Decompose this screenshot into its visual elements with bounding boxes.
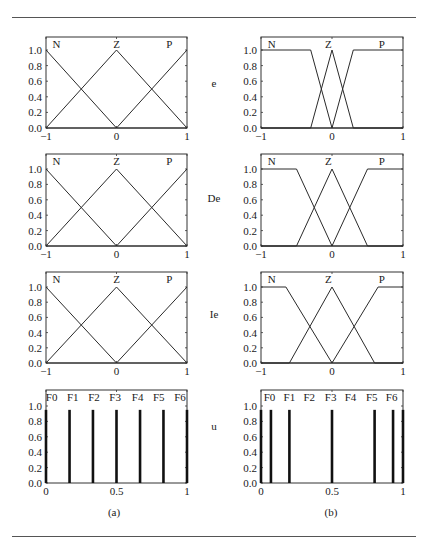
- row-label: Ie: [210, 308, 219, 320]
- x-tick-label: 1: [184, 130, 190, 142]
- plots-canvas: 0.00.20.40.60.81.0−101NZP0.00.20.40.60.8…: [0, 0, 427, 548]
- set-label: F0: [46, 391, 58, 403]
- set-label: Z: [325, 273, 332, 285]
- set-label: N: [53, 273, 61, 285]
- y-tick-label: 0.6: [28, 194, 42, 206]
- plot-frame: [261, 154, 403, 246]
- y-tick-label: 0.6: [243, 75, 257, 87]
- set-label: F5: [366, 391, 378, 403]
- membership-N: [46, 169, 187, 246]
- plot-frame: [46, 154, 187, 246]
- set-label: F6: [174, 391, 186, 403]
- y-tick-label: 0.4: [243, 327, 257, 339]
- set-label: P: [166, 38, 172, 50]
- y-tick-label: 0.6: [28, 311, 42, 323]
- x-tick-label: 0: [258, 485, 264, 497]
- x-tick-label: 0: [329, 365, 335, 377]
- membership-N: [46, 50, 187, 128]
- x-tick-label: −1: [40, 130, 52, 142]
- y-tick-label: 0.8: [243, 178, 257, 190]
- membership-Z: [46, 50, 187, 128]
- panel-label: (a): [108, 506, 121, 519]
- set-label: F6: [386, 391, 398, 403]
- set-label: N: [268, 155, 276, 167]
- y-tick-label: 0.2: [28, 106, 42, 118]
- set-label: F4: [132, 391, 144, 403]
- set-label: N: [268, 273, 276, 285]
- x-tick-label: 0: [114, 130, 120, 142]
- y-tick-label: 0.2: [243, 106, 257, 118]
- x-tick-label: 1: [184, 485, 190, 497]
- y-tick-label: 0.8: [28, 60, 42, 72]
- set-label: F1: [284, 391, 296, 403]
- membership-P: [261, 50, 403, 128]
- membership-Z: [261, 287, 403, 363]
- y-tick-label: 1.0: [28, 163, 42, 175]
- y-tick-label: 0.6: [28, 431, 42, 443]
- set-label: F4: [345, 391, 357, 403]
- set-label: N: [53, 38, 61, 50]
- set-label: P: [166, 155, 172, 167]
- x-tick-label: 0: [329, 248, 335, 260]
- y-tick-label: 1.0: [28, 44, 42, 56]
- x-tick-label: −1: [255, 248, 267, 260]
- panel-label: (b): [325, 506, 338, 519]
- y-tick-label: 0.8: [28, 178, 42, 190]
- set-label: F2: [303, 391, 315, 403]
- y-tick-label: 0.2: [243, 225, 257, 237]
- y-tick-label: 0.4: [28, 446, 42, 458]
- bottom-rule: [12, 536, 416, 537]
- x-tick-label: 1: [184, 248, 190, 260]
- y-tick-label: 0.6: [243, 311, 257, 323]
- x-tick-label: 0.5: [325, 485, 339, 497]
- x-tick-label: 0.5: [110, 485, 124, 497]
- chart-u-a: 0.00.20.40.60.81.000.51F0F1F2F3F4F5F6: [28, 390, 190, 497]
- set-label: P: [166, 273, 172, 285]
- x-tick-label: 0: [114, 248, 120, 260]
- x-tick-label: −1: [255, 130, 267, 142]
- y-tick-label: 0.4: [243, 91, 257, 103]
- y-tick-label: 1.0: [243, 400, 257, 412]
- y-tick-label: 0.2: [28, 225, 42, 237]
- membership-Z: [261, 50, 403, 128]
- x-tick-label: 0: [43, 485, 49, 497]
- membership-Z: [261, 169, 403, 246]
- y-tick-label: 1.0: [28, 400, 42, 412]
- set-label: P: [379, 155, 385, 167]
- figure: 0.00.20.40.60.81.0−101NZP0.00.20.40.60.8…: [0, 0, 427, 548]
- membership-N: [261, 169, 403, 246]
- set-label: F5: [153, 391, 165, 403]
- chart-e-a: 0.00.20.40.60.81.0−101NZP: [28, 37, 190, 142]
- membership-Z: [46, 287, 187, 363]
- y-tick-label: 0.6: [28, 75, 42, 87]
- membership-P: [46, 169, 187, 246]
- set-label: F3: [109, 391, 121, 403]
- chart-de-a: 0.00.20.40.60.81.0−101NZP: [28, 154, 190, 260]
- row-label: De: [208, 192, 221, 204]
- y-tick-label: 0.6: [243, 194, 257, 206]
- x-tick-label: 1: [400, 365, 406, 377]
- set-label: Z: [113, 273, 120, 285]
- y-tick-label: 0.8: [28, 296, 42, 308]
- membership-P: [261, 287, 403, 363]
- chart-e-b: 0.00.20.40.60.81.0−101NZP: [243, 37, 406, 142]
- set-label: P: [379, 273, 385, 285]
- membership-N: [261, 50, 403, 128]
- y-tick-label: 0.4: [243, 209, 257, 221]
- plot-frame: [261, 272, 403, 363]
- x-tick-label: 0: [114, 365, 120, 377]
- y-tick-label: 1.0: [28, 281, 42, 293]
- y-tick-label: 1.0: [243, 281, 257, 293]
- x-tick-label: 1: [400, 130, 406, 142]
- y-tick-label: 0.4: [243, 446, 257, 458]
- chart-de-b: 0.00.20.40.60.81.0−101NZP: [243, 154, 406, 260]
- set-label: F3: [325, 391, 337, 403]
- plot-frame: [46, 272, 187, 363]
- row-label: u: [211, 420, 217, 432]
- chart-ie-b: 0.00.20.40.60.81.0−101NZP: [243, 272, 406, 377]
- membership-P: [261, 169, 403, 246]
- y-tick-label: 0.2: [28, 462, 42, 474]
- set-label: F1: [67, 391, 79, 403]
- y-tick-label: 0.2: [243, 342, 257, 354]
- set-label: F0: [264, 391, 276, 403]
